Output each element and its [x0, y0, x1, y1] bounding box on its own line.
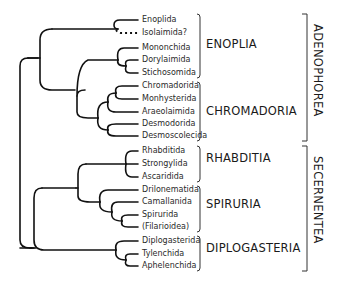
class-label: ADENOPHOREA	[311, 24, 325, 117]
leaf-label: Desmodorida	[142, 119, 195, 129]
bracket-secernentea	[302, 146, 307, 271]
leaf-label: Drilonematida	[142, 185, 199, 195]
leaf-label: Dorylaimida	[142, 55, 190, 65]
leaf-label: Rhabditida	[142, 146, 185, 156]
class-label: SECERNENTEA	[311, 156, 325, 244]
leaf-label: Aphelenchida	[142, 261, 196, 271]
leaf-label: Araeolaimida	[142, 107, 195, 117]
leaf-label: Strongylida	[142, 159, 188, 169]
leaf-label: Tylenchida	[142, 249, 184, 259]
bracket-rhabditia	[197, 146, 200, 182]
leaf-label: Camallanida	[142, 197, 192, 207]
leaf-label: (Filarioidea)	[142, 222, 189, 232]
adenophorea-node	[40, 29, 75, 90]
isolaimida-dashed-branch	[116, 30, 138, 33]
group-label: SPIRURIA	[206, 198, 261, 211]
group-label: DIPLOGASTERIA	[206, 242, 300, 255]
group-label: ENOPLIA	[206, 38, 257, 51]
enoplia-chromadoria-node	[77, 60, 118, 96]
leaf-label: Chromadorida	[142, 81, 199, 91]
leaf-label: Stichosomida	[142, 68, 196, 78]
leaf-label: Monhysterida	[142, 94, 196, 104]
group-label: RHABDITIA	[206, 152, 271, 165]
leaf-label: Ascaridida	[142, 172, 184, 182]
leaf-label: Mononchida	[142, 43, 191, 53]
bracket-enoplia	[197, 14, 200, 78]
leaf-label: Spirurida	[142, 210, 178, 220]
bracket-adenophorea	[302, 14, 307, 141]
leaf-label: Desmoscolecida	[142, 131, 207, 141]
leaf-label: Isolaimida?	[142, 28, 187, 38]
group-label: CHROMADORIA	[206, 105, 297, 118]
leaf-label: Enoplida	[142, 15, 177, 25]
leaf-label: Diplogasterida	[142, 236, 200, 246]
